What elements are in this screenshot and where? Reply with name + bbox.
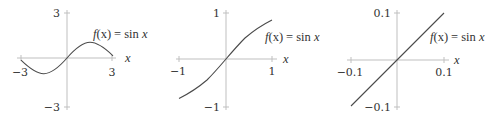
plot-1: −3 3 3 −3 x f(x)= sin x <box>12 7 148 114</box>
y-tick-label-min: −1 <box>204 101 220 114</box>
function-arg: (x) <box>96 27 111 41</box>
x-tick-label-min: −3 <box>12 66 28 79</box>
x-axis-label: x <box>124 51 131 65</box>
function-var: x <box>313 30 320 44</box>
function-arg: (x) <box>268 30 283 44</box>
function-label: f(x)= sin x <box>93 27 148 41</box>
x-tick-label-min: −0.1 <box>337 66 364 79</box>
function-label: f(x)= sin x <box>265 30 320 44</box>
function-var: x <box>141 27 148 41</box>
sin-plots-figure: −3 3 3 −3 x f(x)= sin x −1 1 1 −1 x f(x)… <box>0 0 500 121</box>
function-rhs: = sin <box>114 27 142 41</box>
y-tick-label-max: 0.1 <box>374 7 392 20</box>
function-arg: (x) <box>433 30 448 44</box>
y-tick-label-max: 1 <box>213 7 220 20</box>
x-axis-label: x <box>453 53 460 67</box>
y-tick-label-min: −0.1 <box>364 101 391 114</box>
x-tick-label-max: 3 <box>109 66 116 79</box>
function-label: f(x)= sin x <box>430 30 485 44</box>
x-tick-label-max: 1 <box>269 65 276 78</box>
plot-2: −1 1 1 −1 x f(x)= sin x <box>170 7 320 114</box>
x-axis-label: x <box>282 52 289 66</box>
function-var: x <box>478 30 485 44</box>
plot-3: −0.1 0.1 0.1 −0.1 x f(x)= sin x <box>337 7 485 114</box>
x-tick-label-max: 0.1 <box>435 66 453 79</box>
y-tick-label-min: −3 <box>44 101 60 114</box>
y-tick-label-max: 3 <box>53 7 60 20</box>
x-tick-label-min: −1 <box>170 65 186 78</box>
function-rhs: = sin <box>451 30 479 44</box>
function-rhs: = sin <box>286 30 314 44</box>
